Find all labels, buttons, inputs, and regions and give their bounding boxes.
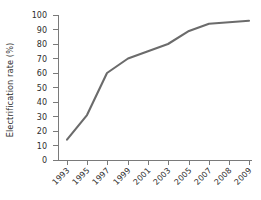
y-tick-label-10: 10 bbox=[37, 142, 47, 151]
y-tick-label-80: 80 bbox=[37, 40, 47, 49]
y-tick-label-100: 100 bbox=[32, 11, 47, 20]
y-axis-title: Electrification rate (%) bbox=[5, 43, 15, 138]
y-tick-label-40: 40 bbox=[37, 98, 47, 107]
y-tick-label-20: 20 bbox=[37, 127, 47, 136]
y-tick-label-60: 60 bbox=[37, 69, 47, 78]
y-tick-label-70: 70 bbox=[37, 55, 47, 64]
chart-plot-area: Electrification rate (%) 0 10 20 30 40 5… bbox=[0, 0, 261, 200]
y-tick-label-50: 50 bbox=[37, 84, 47, 93]
y-tick-label-90: 90 bbox=[37, 26, 47, 35]
y-tick-label-0: 0 bbox=[42, 156, 47, 165]
y-tick-label-30: 30 bbox=[37, 113, 47, 122]
line-chart-figure: Electrification rate (%) 0 10 20 30 40 5… bbox=[0, 0, 261, 200]
